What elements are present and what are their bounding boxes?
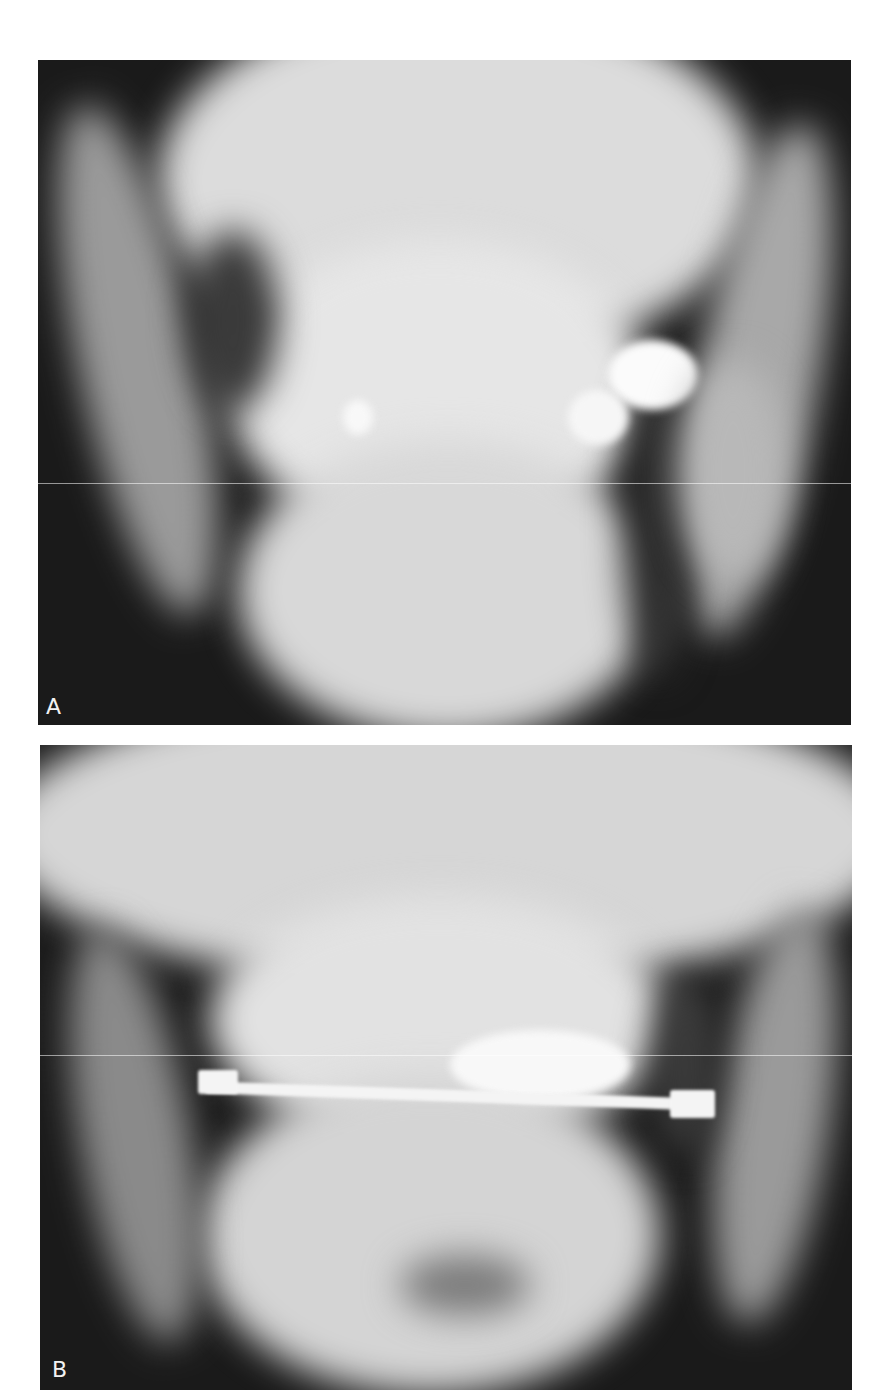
panel-label-b: B	[52, 1357, 67, 1382]
dental-restoration-right	[450, 1030, 630, 1100]
arch-bar-left-lugs	[198, 1070, 238, 1094]
scan-artifact-line	[38, 483, 851, 484]
left-mandibular-ramus	[44, 919, 225, 1352]
dental-restoration-left	[343, 400, 373, 435]
right-mandibular-ramus	[691, 899, 852, 1330]
radiograph-panel-a: A	[38, 60, 851, 725]
scan-artifact-line	[40, 1055, 852, 1056]
displaced-fragment	[678, 360, 788, 580]
radiograph-panel-b: B	[40, 745, 852, 1390]
chin-shadow	[400, 1255, 530, 1315]
mandible-body	[200, 1075, 660, 1390]
arch-bar-right-lugs	[670, 1090, 715, 1118]
right-soft-tissue-shadow	[650, 975, 720, 1155]
left-soft-tissue-shadow	[188, 230, 278, 410]
panel-label-a: A	[46, 694, 61, 719]
dental-restoration-center-right	[568, 390, 628, 445]
